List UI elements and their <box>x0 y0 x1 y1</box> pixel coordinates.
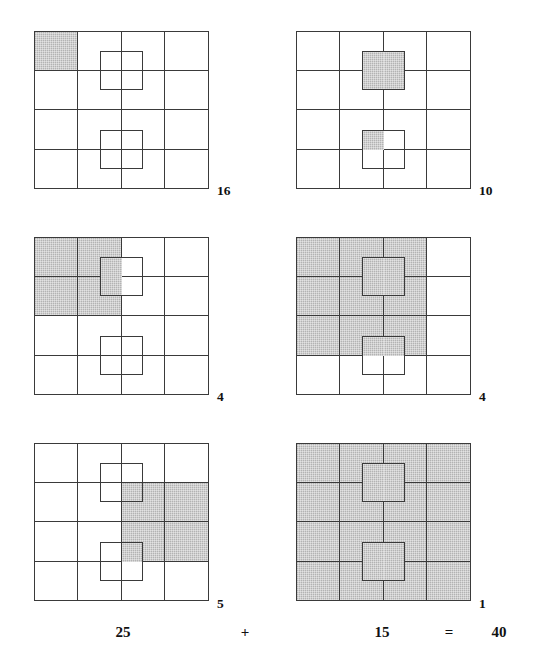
overlay-quadrant-tl-shaded <box>363 337 384 356</box>
overlay-quadrant-tl <box>101 131 122 150</box>
overlay-quadrant-br <box>384 150 405 169</box>
overlay-quadrant-tr-shaded <box>384 543 405 562</box>
grid-cell <box>427 316 471 356</box>
overlay-quadrant-br <box>122 277 143 296</box>
grid-cell <box>165 562 209 602</box>
grid-cell <box>427 31 471 71</box>
grid-panel-5 <box>34 443 209 601</box>
grid-cell <box>296 71 340 111</box>
overlay-quadrant-tl <box>101 543 122 562</box>
grid-cell <box>165 237 209 277</box>
overlay-quadrant-bl-shaded <box>363 483 384 502</box>
overlay-quadrant-bl <box>101 356 122 375</box>
overlay-square-lower <box>362 336 406 376</box>
grid-cell <box>165 31 209 71</box>
count-label-2: 10 <box>479 184 493 198</box>
overlay-quadrant-tr <box>122 52 143 71</box>
overlay-square-upper <box>362 51 406 91</box>
overlay-quadrant-bl-shaded <box>363 71 384 90</box>
figure-canvas: 1610445125+15=40 <box>0 0 536 669</box>
overlay-quadrant-bl-shaded <box>101 277 122 296</box>
overlay-square-lower <box>362 130 406 170</box>
overlay-quadrant-br <box>122 562 143 581</box>
overlay-square-lower <box>100 542 144 582</box>
overlay-quadrant-tl-shaded <box>363 131 384 150</box>
grid-cell-shaded <box>427 443 471 483</box>
overlay-quadrant-bl <box>101 150 122 169</box>
grid-cell <box>296 31 340 71</box>
overlay-quadrant-tr-shaded <box>384 464 405 483</box>
overlay-quadrant-br-shaded <box>384 277 405 296</box>
overlay-square-lower <box>362 542 406 582</box>
grid-cell <box>34 443 78 483</box>
grid-cell-shaded <box>427 562 471 602</box>
overlay-quadrant-tl <box>101 337 122 356</box>
grid-cell <box>427 356 471 396</box>
grid-cell-shaded <box>296 237 340 277</box>
grid-panel-6 <box>296 443 471 601</box>
overlay-quadrant-tr <box>384 131 405 150</box>
grid-cell <box>427 71 471 111</box>
grid-cell <box>165 71 209 111</box>
overlay-quadrant-tl-shaded <box>363 52 384 71</box>
grid-cell <box>296 356 340 396</box>
grid-cell <box>34 110 78 150</box>
grid-cell-shaded <box>427 483 471 523</box>
overlay-quadrant-bl-shaded <box>363 562 384 581</box>
overlay-quadrant-tl-shaded <box>363 258 384 277</box>
grid-cell <box>34 71 78 111</box>
grid-cell <box>34 316 78 356</box>
grid-cell-shaded <box>427 522 471 562</box>
overlay-quadrant-br <box>122 150 143 169</box>
overlay-quadrant-bl-shaded <box>363 277 384 296</box>
count-label-6: 1 <box>479 597 486 611</box>
overlay-square-lower <box>100 130 144 170</box>
summary-equals-operator: = <box>445 625 454 640</box>
grid-cell <box>427 150 471 190</box>
overlay-square-upper <box>100 463 144 503</box>
count-label-3: 4 <box>217 390 224 404</box>
overlay-quadrant-tr-shaded <box>384 258 405 277</box>
grid-cell <box>34 522 78 562</box>
grid-cell <box>34 483 78 523</box>
grid-cell <box>34 562 78 602</box>
grid-cell-shaded <box>296 483 340 523</box>
summary-grand-total: 40 <box>492 625 507 640</box>
grid-cell <box>34 150 78 190</box>
grid-cell-shaded <box>34 237 78 277</box>
overlay-quadrant-bl <box>101 483 122 502</box>
grid-cell-shaded <box>296 277 340 317</box>
grid-cell <box>427 277 471 317</box>
grid-cell-shaded <box>296 522 340 562</box>
overlay-square-upper <box>362 257 406 297</box>
grid-cell-shaded <box>296 443 340 483</box>
overlay-quadrant-bl <box>363 150 384 169</box>
grid-panel-3 <box>34 237 209 395</box>
overlay-quadrant-bl <box>101 562 122 581</box>
overlay-quadrant-tr-shaded <box>384 52 405 71</box>
count-label-1: 16 <box>217 184 231 198</box>
count-label-5: 5 <box>217 597 224 611</box>
grid-panel-1 <box>34 31 209 189</box>
grid-cell-shaded <box>165 522 209 562</box>
overlay-quadrant-br-shaded <box>384 483 405 502</box>
overlay-quadrant-br-shaded <box>384 71 405 90</box>
grid-cell <box>34 356 78 396</box>
grid-cell-shaded <box>34 277 78 317</box>
overlay-quadrant-br <box>122 356 143 375</box>
summary-left-total: 25 <box>116 625 131 640</box>
overlay-quadrant-tr <box>122 131 143 150</box>
grid-cell <box>165 277 209 317</box>
grid-cell <box>296 150 340 190</box>
grid-cell-shaded <box>296 562 340 602</box>
overlay-square-upper <box>100 257 144 297</box>
summary-plus-operator: + <box>241 625 250 640</box>
overlay-quadrant-tl-shaded <box>101 258 122 277</box>
count-label-4: 4 <box>479 390 486 404</box>
overlay-quadrant-tr <box>122 464 143 483</box>
overlay-quadrant-tl <box>101 464 122 483</box>
overlay-quadrant-tl-shaded <box>363 464 384 483</box>
grid-cell-shaded <box>296 316 340 356</box>
overlay-quadrant-br <box>122 71 143 90</box>
grid-cell-shaded <box>165 483 209 523</box>
